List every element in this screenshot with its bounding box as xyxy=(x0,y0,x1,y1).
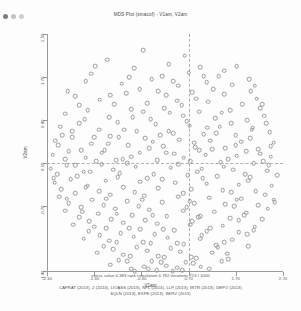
scatter-point xyxy=(70,129,75,134)
scatter-point xyxy=(266,206,271,211)
scatter-point xyxy=(248,136,253,141)
scatter-point xyxy=(147,146,152,151)
scatter-point xyxy=(158,133,163,138)
scatter-point xyxy=(134,245,139,250)
scatter-point xyxy=(104,197,109,202)
scatter-point xyxy=(48,166,53,171)
scatter-point xyxy=(201,74,206,79)
scatter-point xyxy=(245,232,250,237)
scatter-point xyxy=(214,131,219,136)
scatter-point xyxy=(59,187,64,192)
scatter-point xyxy=(115,240,120,245)
scatter-point xyxy=(128,254,133,259)
scatter-point xyxy=(236,218,241,223)
scatter-point xyxy=(103,178,108,183)
scatter-point xyxy=(131,115,136,120)
window-titlebar: MDS Plot (smacof) - V1am, V2am xyxy=(0,12,301,25)
scatter-point xyxy=(161,144,166,149)
scatter-point xyxy=(104,226,109,231)
scatter-point xyxy=(79,148,84,153)
window-title: MDS Plot (smacof) - V1am, V2am xyxy=(0,12,301,17)
scatter-point xyxy=(132,190,137,195)
scatter-point xyxy=(137,87,142,92)
scatter-point xyxy=(113,206,118,211)
scatter-point xyxy=(98,233,103,238)
scatter-point xyxy=(88,170,93,175)
scatter-point xyxy=(73,94,78,99)
scatter-point xyxy=(77,103,82,108)
scatter-point xyxy=(210,147,215,152)
scatter-point xyxy=(181,191,186,196)
scatter-point xyxy=(260,102,265,107)
scatter-point xyxy=(232,204,237,209)
scatter-point xyxy=(107,115,112,120)
scatter-point xyxy=(75,174,80,179)
stress-statistics-line: stress value 0.383 rank correlation 0.78… xyxy=(0,273,301,278)
scatter-point xyxy=(77,215,82,220)
scatter-point xyxy=(92,135,97,140)
scatter-point xyxy=(99,162,104,167)
scatter-point xyxy=(222,240,227,245)
variables-line-1: CAPRAT (2013), 2 (2013), LIOASS (2013), … xyxy=(0,285,301,290)
scatter-point xyxy=(129,155,134,160)
scatter-point xyxy=(268,155,273,160)
scatter-point xyxy=(66,201,71,206)
scatter-point xyxy=(141,109,146,114)
y-tick-label: -0.70 xyxy=(40,206,45,220)
scatter-point xyxy=(256,203,261,208)
scatter-point xyxy=(244,149,249,154)
scatter-point xyxy=(208,138,213,143)
scatter-point xyxy=(126,143,131,148)
y-tick-label: 0.10 xyxy=(40,163,45,177)
scatter-point xyxy=(164,263,169,268)
scatter-point xyxy=(183,260,188,265)
scatter-point xyxy=(234,64,239,69)
scatter-point xyxy=(192,141,197,146)
scatter-point xyxy=(118,231,123,236)
scatter-point xyxy=(229,190,234,195)
scatter-point xyxy=(106,142,111,147)
scatter-point xyxy=(154,268,159,273)
scatter-point xyxy=(167,110,172,115)
scatter-point xyxy=(187,199,192,204)
scatter-point xyxy=(111,247,116,252)
scatter-point xyxy=(217,74,222,79)
scatter-point xyxy=(190,219,195,224)
scatter-point xyxy=(260,217,265,222)
scatter-point xyxy=(225,251,230,256)
scatter-point xyxy=(143,218,148,223)
scatter-point xyxy=(182,156,187,161)
scatter-point xyxy=(98,97,103,102)
scatter-point xyxy=(181,114,186,119)
scatter-point xyxy=(219,259,224,264)
scatter-point xyxy=(228,216,233,221)
scatter-point xyxy=(230,237,235,242)
scatter-point xyxy=(185,173,190,178)
scatter-point xyxy=(92,225,97,230)
scatter-point xyxy=(222,68,227,73)
scatter-point xyxy=(119,81,124,86)
scatter-point xyxy=(147,207,152,212)
scatter-point xyxy=(83,185,88,190)
scatter-point xyxy=(175,241,180,246)
scatter-point xyxy=(236,183,241,188)
scatter-point xyxy=(198,65,203,70)
scatter-point xyxy=(203,152,208,157)
scatter-point xyxy=(253,189,258,194)
scatter-point xyxy=(216,245,221,250)
scatter-point xyxy=(206,100,211,105)
scatter-point xyxy=(208,226,213,231)
scatter-point xyxy=(149,117,154,122)
scatter-point xyxy=(127,226,132,231)
scatter-point xyxy=(172,151,177,156)
scatter-point xyxy=(145,176,150,181)
scatter-point xyxy=(226,257,231,262)
scatter-point xyxy=(213,116,218,121)
scatter-point xyxy=(94,159,99,164)
scatter-point xyxy=(231,167,236,172)
scatter-point xyxy=(71,222,76,227)
scatter-point xyxy=(116,175,121,180)
scatter-point xyxy=(60,133,65,138)
scatter-point xyxy=(156,89,161,94)
scatter-point xyxy=(258,151,263,156)
